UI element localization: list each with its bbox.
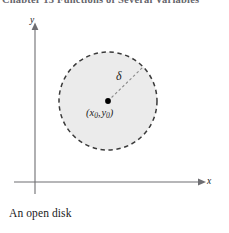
figure-caption: An open disk [9,207,72,219]
delta-radius-label: δ [116,70,122,82]
x-axis [14,179,206,186]
y-axis [32,23,39,195]
x-axis-label: x [207,177,211,187]
center-label-close-paren: ) [110,107,114,118]
figure-page: Chapter 13 Functions of Several Variable… [0,0,229,233]
open-disk-svg [0,0,229,205]
open-disk-figure: y x δ (x0, y0) [0,0,229,205]
center-coordinate-label: (x0, y0) [86,108,113,119]
disk-center-point [105,98,111,104]
x-axis-arrowhead [198,179,206,186]
y-axis-label: y [30,16,34,26]
